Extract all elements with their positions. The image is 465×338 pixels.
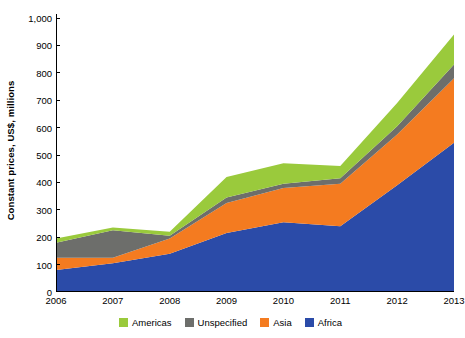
y-tick-label: 1,000 xyxy=(18,13,52,24)
x-tick-label: 2009 xyxy=(216,295,237,306)
x-tick-label: 2010 xyxy=(273,295,294,306)
x-tick-label: 2011 xyxy=(330,295,350,306)
legend-swatch-icon xyxy=(185,318,194,327)
legend-swatch-icon xyxy=(260,318,269,327)
y-tick-label: 500 xyxy=(18,150,52,161)
x-tick-label: 2008 xyxy=(159,295,180,306)
x-tick-label: 2012 xyxy=(387,295,408,306)
y-tick-label: 300 xyxy=(18,204,52,215)
x-tick-label: 2013 xyxy=(443,295,464,306)
legend-label: Africa xyxy=(318,317,342,328)
legend-swatch-icon xyxy=(119,318,128,327)
y-tick-label: 700 xyxy=(18,95,52,106)
legend-label: Americas xyxy=(132,317,172,328)
x-tick-label: 2007 xyxy=(102,295,123,306)
x-tick-label: 2006 xyxy=(45,295,66,306)
legend-label: Asia xyxy=(273,317,291,328)
y-tick-label: 400 xyxy=(18,177,52,188)
y-tick-label: 800 xyxy=(18,67,52,78)
plot-svg xyxy=(56,14,454,292)
plot-area xyxy=(56,14,454,292)
legend-label: Unspecified xyxy=(198,317,248,328)
legend-swatch-icon xyxy=(305,318,314,327)
y-tick-label: 100 xyxy=(18,259,52,270)
chart-legend: AmericasUnspecifiedAsiaAfrica xyxy=(0,317,461,328)
legend-item-asia[interactable]: Asia xyxy=(260,317,291,328)
y-axis-tick-labels: 01002003004005006007008009001,000 xyxy=(14,14,52,292)
y-tick-label: 900 xyxy=(18,40,52,51)
legend-item-unspecified[interactable]: Unspecified xyxy=(185,317,248,328)
y-tick-label: 200 xyxy=(18,232,52,243)
y-tick-label: 600 xyxy=(18,122,52,133)
legend-item-americas[interactable]: Americas xyxy=(119,317,172,328)
x-axis-tick-labels: 20062007200820092010201120122013 xyxy=(56,295,454,311)
legend-item-africa[interactable]: Africa xyxy=(305,317,342,328)
